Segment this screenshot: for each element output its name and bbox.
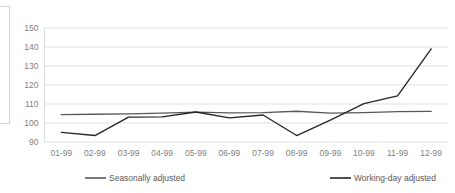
legend-label-1[interactable]: Seasonally adjusted [109,173,185,183]
x-axis-tick-label: 02-99 [84,148,106,158]
y-axis-tick-label: 100 [24,118,38,128]
x-axis-tick-label: 07-99 [252,148,274,158]
y-axis-tick-label: 140 [24,42,38,52]
y-axis-tick-labels: 15014013012011010090 [24,23,38,147]
chart-legend: Seasonally adjustedWorking-day adjusted [85,173,436,183]
y-axis-tick-label: 110 [25,99,39,109]
data-series [61,49,431,136]
x-axis-tick-label: 01-99 [50,148,72,158]
gridlines [45,28,449,142]
y-axis-tick-label: 90 [29,137,39,147]
y-axis-tick-label: 150 [24,23,38,33]
x-axis-tick-label: 05-99 [185,148,207,158]
y-axis-tick-label: 130 [24,61,38,71]
chart-canvas: 15014013012011010090 01-9902-9903-9904-9… [0,0,455,193]
series-line-1 [61,111,431,114]
y-axis-tick-label: 120 [24,80,38,90]
x-axis-tick-label: 09-99 [319,148,341,158]
legend-label-2[interactable]: Working-day adjusted [354,173,436,183]
x-axis-tick-label: 11-99 [387,148,408,158]
x-axis-tick-label: 06-99 [219,148,241,158]
x-axis-tick-label: 03-99 [118,148,140,158]
line-chart: 15014013012011010090 01-9902-9903-9904-9… [0,0,455,193]
x-axis-tick-label: 04-99 [151,148,173,158]
x-axis-tick-label: 10-99 [353,148,375,158]
x-axis-tick-label: 12-99 [420,148,442,158]
x-axis-tick-label: 08-99 [286,148,308,158]
series-line-2 [61,49,431,136]
x-axis-tick-labels: 01-9902-9903-9904-9905-9906-9907-9908-99… [50,148,442,158]
